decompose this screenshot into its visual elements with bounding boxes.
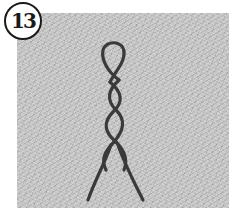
- step-number-badge: 13: [4, 2, 42, 40]
- step-number: 13: [11, 9, 35, 33]
